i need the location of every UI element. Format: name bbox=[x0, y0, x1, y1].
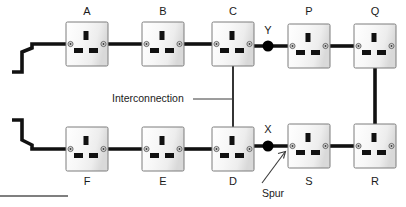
annotation-spur: Spur bbox=[262, 187, 285, 199]
socket-label-c: C bbox=[229, 5, 237, 17]
socket-r-live-pin bbox=[362, 150, 371, 155]
socket-b-live-pin bbox=[150, 48, 159, 53]
socket-r-neutral-pin bbox=[377, 150, 386, 155]
socket-a[interactable] bbox=[66, 22, 108, 66]
junction-dot-y[interactable] bbox=[263, 41, 274, 52]
socket-q[interactable] bbox=[354, 24, 396, 68]
socket-s-neutral-pin bbox=[311, 150, 320, 155]
diagram-canvas: A B C bbox=[0, 0, 406, 207]
socket-f-neutral-pin bbox=[89, 153, 98, 158]
socket-label-p: P bbox=[305, 5, 312, 17]
socket-a-live-pin bbox=[74, 48, 83, 53]
socket-a-earth-pin bbox=[84, 31, 89, 40]
socket-b[interactable] bbox=[142, 22, 184, 66]
socket-q-screw-right-slot bbox=[391, 45, 393, 47]
socket-s-live-pin bbox=[296, 150, 305, 155]
socket-q-earth-pin bbox=[372, 33, 377, 42]
socket-d-earth-pin bbox=[230, 136, 235, 145]
socket-e[interactable] bbox=[142, 127, 184, 171]
socket-e-screw-left-slot bbox=[146, 148, 148, 150]
socket-c-screw-right-slot bbox=[249, 43, 251, 45]
socket-c-earth-pin bbox=[230, 31, 235, 40]
socket-e-live-pin bbox=[150, 153, 159, 158]
socket-c-screw-left-slot bbox=[216, 43, 218, 45]
junction-dot-x[interactable] bbox=[263, 141, 274, 152]
socket-s[interactable] bbox=[288, 124, 330, 168]
socket-p-screw-left-slot bbox=[292, 45, 294, 47]
socket-a-neutral-pin bbox=[89, 48, 98, 53]
socket-c-neutral-pin bbox=[235, 48, 244, 53]
socket-c[interactable] bbox=[212, 22, 254, 66]
annotation-interconnection: Interconnection bbox=[112, 92, 184, 104]
socket-f-earth-pin bbox=[84, 136, 89, 145]
cable-bottom-feed bbox=[12, 120, 66, 149]
socket-label-r: R bbox=[371, 175, 379, 187]
socket-r[interactable] bbox=[354, 124, 396, 168]
socket-q-live-pin bbox=[362, 50, 371, 55]
socket-f[interactable] bbox=[66, 127, 108, 171]
socket-r-screw-right-slot bbox=[391, 145, 393, 147]
socket-d-live-pin bbox=[220, 153, 229, 158]
socket-e-earth-pin bbox=[160, 136, 165, 145]
socket-a-screw-right-slot bbox=[103, 43, 105, 45]
socket-f-screw-left-slot bbox=[70, 148, 72, 150]
socket-label-a: A bbox=[83, 5, 91, 17]
socket-c-live-pin bbox=[220, 48, 229, 53]
socket-r-earth-pin bbox=[372, 133, 377, 142]
junction-label-y: Y bbox=[264, 24, 272, 36]
socket-label-e: E bbox=[159, 175, 166, 187]
socket-s-screw-right-slot bbox=[325, 145, 327, 147]
socket-r-screw-left-slot bbox=[358, 145, 360, 147]
socket-q-neutral-pin bbox=[377, 50, 386, 55]
socket-p-screw-right-slot bbox=[325, 45, 327, 47]
spur-arrow-line bbox=[262, 152, 285, 183]
socket-p-earth-pin bbox=[306, 33, 311, 42]
socket-b-neutral-pin bbox=[165, 48, 174, 53]
cable-top-feed bbox=[12, 44, 66, 72]
socket-label-s: S bbox=[305, 175, 312, 187]
junction-label-x: X bbox=[264, 123, 272, 135]
socket-label-b: B bbox=[159, 5, 166, 17]
socket-d-screw-right-slot bbox=[249, 148, 251, 150]
socket-label-d: D bbox=[229, 175, 237, 187]
socket-p-neutral-pin bbox=[311, 50, 320, 55]
socket-b-screw-left-slot bbox=[146, 43, 148, 45]
socket-b-earth-pin bbox=[160, 31, 165, 40]
socket-b-screw-right-slot bbox=[179, 43, 181, 45]
socket-label-q: Q bbox=[371, 5, 380, 17]
socket-p-live-pin bbox=[296, 50, 305, 55]
socket-s-earth-pin bbox=[306, 133, 311, 142]
socket-a-screw-left-slot bbox=[70, 43, 72, 45]
socket-e-screw-right-slot bbox=[179, 148, 181, 150]
socket-e-neutral-pin bbox=[165, 153, 174, 158]
socket-q-screw-left-slot bbox=[358, 45, 360, 47]
socket-f-screw-right-slot bbox=[103, 148, 105, 150]
ring-circuit-diagram: A B C bbox=[0, 0, 406, 207]
socket-label-f: F bbox=[84, 175, 91, 187]
socket-d[interactable] bbox=[212, 127, 254, 171]
socket-s-screw-left-slot bbox=[292, 145, 294, 147]
socket-d-screw-left-slot bbox=[216, 148, 218, 150]
socket-f-live-pin bbox=[74, 153, 83, 158]
socket-p[interactable] bbox=[288, 24, 330, 68]
socket-d-neutral-pin bbox=[235, 153, 244, 158]
